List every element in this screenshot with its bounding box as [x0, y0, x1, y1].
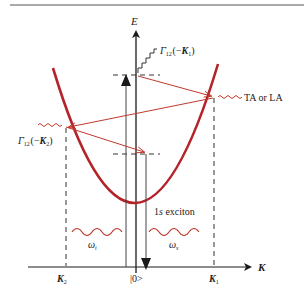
momentum-axis-label: K [257, 261, 266, 273]
phonon-wave-icon [218, 96, 242, 99]
k1-tick-label: K1 [208, 273, 219, 285]
up-arrow-icon [121, 74, 131, 86]
down-arrow-icon [141, 258, 151, 270]
energy-axis-label: E [130, 15, 138, 27]
exciton-dispersion-diagram: E K Γ12− (−K1) TA or LA Γ12− (−K2) 1s ex… [0, 0, 304, 302]
transition-to-k2 [69, 98, 213, 127]
omega-s-label: ωs [169, 239, 179, 251]
gamma-k1-label: Γ12− (−K1) [159, 44, 195, 57]
phonon-label: TA or LA [244, 92, 283, 103]
ground-state-label: |0> [130, 273, 143, 284]
gamma-k2-label: Γ12− (−K2) [17, 134, 53, 147]
omega-i-label: ωi [88, 239, 97, 251]
transition-to-k1 [138, 76, 211, 96]
scattered-photon-wave-icon [149, 229, 199, 236]
k2-tick-label: K2 [56, 273, 67, 285]
staircase-icon [138, 49, 157, 73]
exciton-label: 1s exciton [154, 206, 195, 217]
phonon-wave-k2-icon [38, 124, 62, 127]
incident-photon-wave-icon [72, 229, 122, 236]
